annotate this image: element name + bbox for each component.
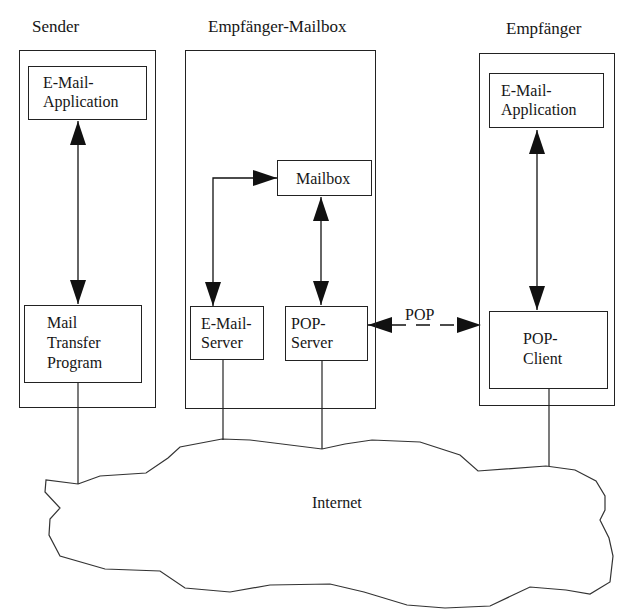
receiver-email-app-line2: Application	[501, 100, 577, 119]
pop-server-line2: Server	[291, 333, 333, 352]
internet-label: Internet	[312, 494, 362, 512]
sender-mtp-line2: Transfer	[47, 333, 101, 352]
email-server-line2: Server	[201, 333, 243, 352]
pop-client-line1: POP-	[523, 329, 558, 348]
column-title-mailbox: Empfänger-Mailbox	[208, 18, 346, 36]
receiver-email-app-line1: E-Mail-	[501, 81, 552, 100]
sender-mtp-line1: Mail	[47, 313, 77, 332]
sender-email-app-line1: E-Mail-	[43, 73, 94, 92]
pop-protocol-label: POP	[405, 306, 434, 324]
sender-mtp-line3: Program	[47, 353, 102, 372]
pop-server-box: POP- Server	[285, 306, 368, 361]
mailbox-store-box: Mailbox	[277, 160, 372, 196]
column-title-receiver: Empfänger	[506, 20, 582, 38]
receiver-email-app-box: E-Mail- Application	[489, 73, 604, 128]
sender-email-app-box: E-Mail- Application	[28, 66, 147, 120]
pop-client-box: POP- Client	[489, 311, 608, 389]
sender-email-app-line2: Application	[43, 92, 119, 111]
sender-mtp-box: Mail Transfer Program	[24, 305, 142, 383]
pop-server-line1: POP-	[291, 314, 326, 333]
email-server-box: E-Mail- Server	[190, 306, 264, 360]
pop-client-line2: Client	[523, 349, 562, 368]
email-server-line1: E-Mail-	[201, 314, 252, 333]
column-title-sender: Sender	[32, 18, 79, 36]
mailbox-store-label: Mailbox	[296, 169, 350, 188]
internet-cloud-shape	[45, 439, 613, 608]
